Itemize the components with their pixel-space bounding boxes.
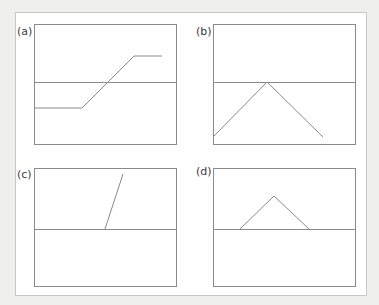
panel-a [34, 25, 177, 145]
panel-label-a: (a) [17, 25, 32, 38]
panel-b [213, 25, 356, 145]
figure-canvas [0, 0, 379, 305]
panel-c [34, 169, 177, 287]
panel-label-b: (b) [196, 25, 212, 38]
panel-d [213, 169, 356, 287]
panel-label-d: (d) [196, 165, 212, 178]
panel-label-c: (c) [17, 168, 32, 181]
